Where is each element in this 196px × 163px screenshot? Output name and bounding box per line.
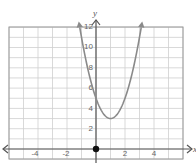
x-axis-label: x: [192, 144, 196, 154]
x-tick-label: -4: [31, 149, 39, 158]
y-tick-label: 8: [89, 63, 94, 72]
coordinate-plane: y x -4 -2 2 4 2 4 6 8 10 12: [0, 0, 196, 163]
y-tick-label: 12: [84, 22, 93, 31]
x-tick-label: 4: [152, 149, 157, 158]
y-tick-label: 2: [89, 124, 94, 133]
origin-point: [93, 146, 99, 152]
curve-right-arrow-icon: [138, 21, 144, 27]
y-tick-label: 10: [84, 42, 93, 51]
curve-left-arrow-icon: [77, 21, 83, 27]
y-tick-label: 4: [89, 104, 94, 113]
x-tick-label: -2: [62, 149, 70, 158]
x-tick-label: 2: [123, 149, 128, 158]
y-axis-label: y: [92, 8, 97, 18]
